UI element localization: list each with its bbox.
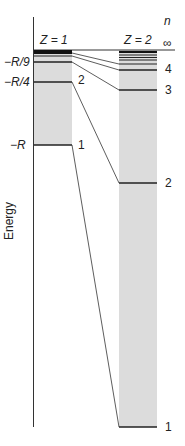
- n-header: n: [164, 15, 171, 27]
- z2-label-n4: 4: [165, 63, 172, 75]
- z1-label-n1: 1: [78, 139, 85, 151]
- energy-label-r: −R: [10, 139, 26, 151]
- z2-dense-levels: [119, 51, 157, 53]
- z2-label-n2: 2: [165, 177, 172, 189]
- energy-label-r9: −R/9: [4, 56, 30, 68]
- z2-label-n3: 3: [165, 84, 172, 96]
- connector-n1: [72, 145, 119, 427]
- z1-band: [34, 50, 72, 145]
- connector-n2: [72, 82, 119, 183]
- z1-label-n2: 2: [78, 74, 85, 86]
- energy-axis-label: Energy: [2, 202, 16, 240]
- infinity-label: ∞: [163, 37, 172, 49]
- z1-dense-levels: [34, 50, 72, 54]
- z2-title: Z = 2: [124, 34, 152, 46]
- z2-band: [119, 50, 157, 427]
- energy-label-r4: −R/4: [4, 76, 30, 88]
- energy-level-diagram: Z = 1 Z = 2 n ∞ 4 3 2 1 2 1 −R/9 −R/4 −R…: [0, 0, 185, 446]
- z2-label-n1: 1: [165, 421, 172, 433]
- z1-title: Z = 1: [40, 34, 68, 46]
